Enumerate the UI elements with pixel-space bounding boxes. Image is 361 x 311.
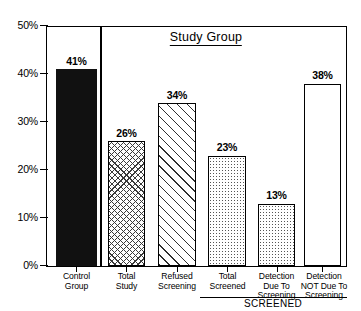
x-label-control-group: Control Group [48,272,105,291]
bar-total-study [108,141,145,266]
plot-axis-left [46,26,47,267]
bar-value-detection-not-due-to-screening: 38% [304,70,341,81]
bar-value-detection-due-to-screening: 13% [258,190,295,201]
screened-bracket-label: SCREENED [244,298,302,309]
bar-value-total-screened: 23% [208,142,246,153]
plot-axis-right [346,26,347,267]
y-tick-label-10: 10% [4,212,38,222]
bar-control-group [56,69,97,266]
bar-value-control-group: 41% [56,56,97,67]
bar-total-screened [208,156,246,266]
x-label-refused-screening: Refused Screening [147,272,207,291]
y-tick-label-30: 30% [4,116,38,126]
bar-detection-not-due-to-screening [304,84,341,266]
bar-chart: 50% 40% 30% 20% 10% 0% Study Group 41% 2 [0,0,361,311]
y-tick-label-20: 20% [4,164,38,174]
bar-detection-due-to-screening [258,204,295,266]
y-tick-label-40: 40% [4,68,38,78]
group-divider [100,26,102,267]
study-group-title: Study Group [170,31,242,46]
y-tick-label-0: 0% [4,260,38,270]
plot-axis-top [46,26,347,27]
x-label-total-study: Total Study [99,272,154,291]
plot-axis-bottom [46,266,347,267]
bar-value-refused-screening: 34% [158,90,196,101]
bar-value-total-study: 26% [108,128,145,139]
y-tick-label-50: 50% [4,20,38,30]
bar-refused-screening [158,103,196,266]
